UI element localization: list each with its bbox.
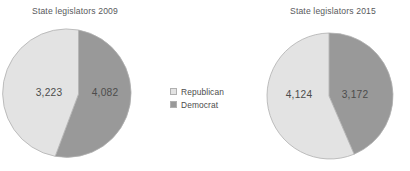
pie-label-republican-right: 4,124 — [286, 89, 313, 100]
legend-item-democrat[interactable]: Democrat — [170, 99, 248, 110]
legend: Republican Democrat — [170, 86, 248, 112]
legend-item-republican[interactable]: Republican — [170, 86, 248, 97]
pie-left: 4,082 3,223 — [0, 22, 160, 167]
pie-label-democrat-right: 3,172 — [342, 89, 369, 100]
legend-swatch-republican-icon — [170, 88, 177, 95]
pie-label-republican-left: 3,223 — [36, 87, 63, 98]
chart-title-left: State legislators 2009 — [10, 6, 140, 16]
legend-label-democrat: Democrat — [181, 100, 218, 110]
chart-state-legislators-2009: State legislators 2009 4,082 3,223 — [0, 0, 160, 171]
legend-label-republican: Republican — [181, 87, 224, 97]
pie-chart-figure: State legislators 2009 4,082 3,223 State… — [0, 0, 410, 171]
pie-label-democrat-left: 4,082 — [92, 87, 119, 98]
legend-swatch-democrat-icon — [170, 101, 177, 108]
chart-state-legislators-2015: State legislators 2015 3,172 4,124 — [250, 0, 410, 171]
pie-right: 3,172 4,124 — [250, 22, 410, 167]
chart-title-right: State legislators 2015 — [268, 6, 398, 16]
